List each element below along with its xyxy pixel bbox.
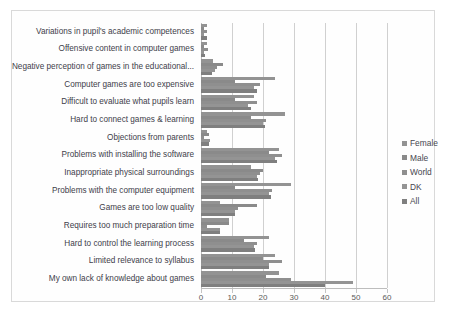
- category-label: Objections from parents: [107, 134, 194, 142]
- legend-label: All: [410, 196, 419, 206]
- category-group: My own lack of knowledge about games: [201, 270, 387, 288]
- category-label: Computer games are too expensive: [64, 81, 194, 89]
- legend-swatch-icon: [402, 184, 407, 189]
- x-tick-label: 40: [321, 293, 330, 302]
- legend-item-female[interactable]: Female: [402, 136, 453, 151]
- legend-item-world[interactable]: World: [402, 165, 453, 180]
- x-tick-label: 50: [352, 293, 361, 302]
- chart-legend: FemaleMaleWorldDKAll: [402, 136, 453, 209]
- bar-all: [201, 36, 207, 39]
- category-label: Inappropriate physical surroundings: [64, 169, 194, 177]
- bar-all: [201, 195, 271, 198]
- category-label: Offensive content in computer games: [59, 45, 194, 53]
- bar-all: [201, 72, 212, 75]
- plot-area: 0102030405060 Variations in pupil's acad…: [201, 23, 387, 288]
- bar-all: [201, 266, 269, 269]
- category-label: Problems with the computer equipment: [52, 187, 194, 195]
- x-tick-label: 20: [259, 293, 268, 302]
- category-label: Variations in pupil's academic competenc…: [36, 28, 194, 36]
- bar-all: [201, 125, 265, 128]
- x-tick-label: 30: [290, 293, 299, 302]
- legend-swatch-icon: [402, 141, 407, 146]
- category-group: Negative perception of games in the educ…: [201, 58, 387, 76]
- chart-container: 0102030405060 Variations in pupil's acad…: [11, 10, 435, 302]
- category-label: Requires too much preparation time: [64, 222, 194, 230]
- legend-label: Female: [410, 138, 438, 148]
- legend-label: World: [410, 167, 432, 177]
- gridline-60: [387, 23, 388, 288]
- category-label: Games are too low quality: [99, 204, 194, 212]
- category-label: Hard to control the learning process: [64, 240, 194, 248]
- legend-label: Male: [410, 153, 428, 163]
- category-group: Difficult to evaluate what pupils learn: [201, 94, 387, 112]
- legend-item-male[interactable]: Male: [402, 151, 453, 166]
- bar-all: [201, 142, 209, 145]
- legend-label: DK: [410, 182, 422, 192]
- bar-all: [201, 160, 277, 163]
- category-group: Computer games are too expensive: [201, 76, 387, 94]
- category-group: Problems with installing the software: [201, 147, 387, 165]
- category-group: Limited relevance to syllabus: [201, 253, 387, 271]
- x-tick-label: 0: [199, 293, 203, 302]
- bar-all: [201, 284, 325, 287]
- legend-swatch-icon: [402, 170, 407, 175]
- category-group: Objections from parents: [201, 129, 387, 147]
- category-group: Games are too low quality: [201, 200, 387, 218]
- bar-all: [201, 248, 255, 251]
- category-group: Hard to connect games & learning: [201, 111, 387, 129]
- category-group: Offensive content in computer games: [201, 41, 387, 59]
- category-label: Difficult to evaluate what pupils learn: [61, 98, 194, 106]
- bar-all: [201, 213, 235, 216]
- category-group: Inappropriate physical surroundings: [201, 164, 387, 182]
- category-group: Problems with the computer equipment: [201, 182, 387, 200]
- category-label: Limited relevance to syllabus: [89, 257, 194, 265]
- category-label: My own lack of knowledge about games: [49, 275, 194, 283]
- x-tick-label: 60: [383, 293, 392, 302]
- category-group: Variations in pupil's academic competenc…: [201, 23, 387, 41]
- category-group: Hard to control the learning process: [201, 235, 387, 253]
- category-label: Hard to connect games & learning: [70, 116, 194, 124]
- bar-all: [201, 89, 257, 92]
- legend-item-dk[interactable]: DK: [402, 180, 453, 195]
- category-label: Negative perception of games in the educ…: [12, 63, 194, 71]
- bar-all: [201, 54, 205, 57]
- bar-all: [201, 178, 258, 181]
- legend-swatch-icon: [402, 155, 407, 160]
- bar-all: [201, 107, 251, 110]
- legend-swatch-icon: [402, 199, 407, 204]
- legend-item-all[interactable]: All: [402, 194, 453, 209]
- bar-all: [201, 231, 220, 234]
- category-group: Requires too much preparation time: [201, 217, 387, 235]
- category-label: Problems with installing the software: [62, 151, 194, 159]
- x-tick-label: 10: [228, 293, 237, 302]
